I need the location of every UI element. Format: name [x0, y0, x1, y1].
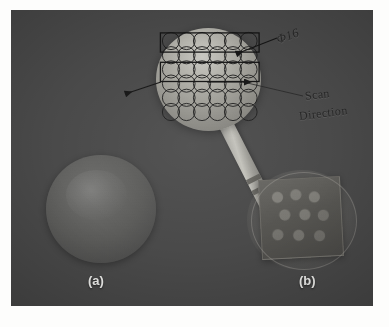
textured-fixture-b [258, 176, 344, 260]
figure-root: Φ16 Scan Direction (a) (b) [0, 0, 389, 327]
scan-grid-overlay [161, 32, 265, 132]
phi16-label: Φ16 [274, 26, 301, 48]
sphere-specimen-a [46, 155, 156, 263]
scan-direction-label-line1: Scan [304, 86, 331, 104]
photograph-plate: Φ16 Scan Direction (a) (b) [11, 10, 373, 306]
grid-circle-array [162, 32, 257, 120]
panel-caption-b: (b) [299, 273, 316, 288]
scan-band-rects [160, 33, 259, 82]
panel-caption-a: (a) [88, 273, 104, 288]
sphere-a-highlight [66, 170, 128, 220]
scan-direction-label-line2: Direction [298, 103, 348, 124]
